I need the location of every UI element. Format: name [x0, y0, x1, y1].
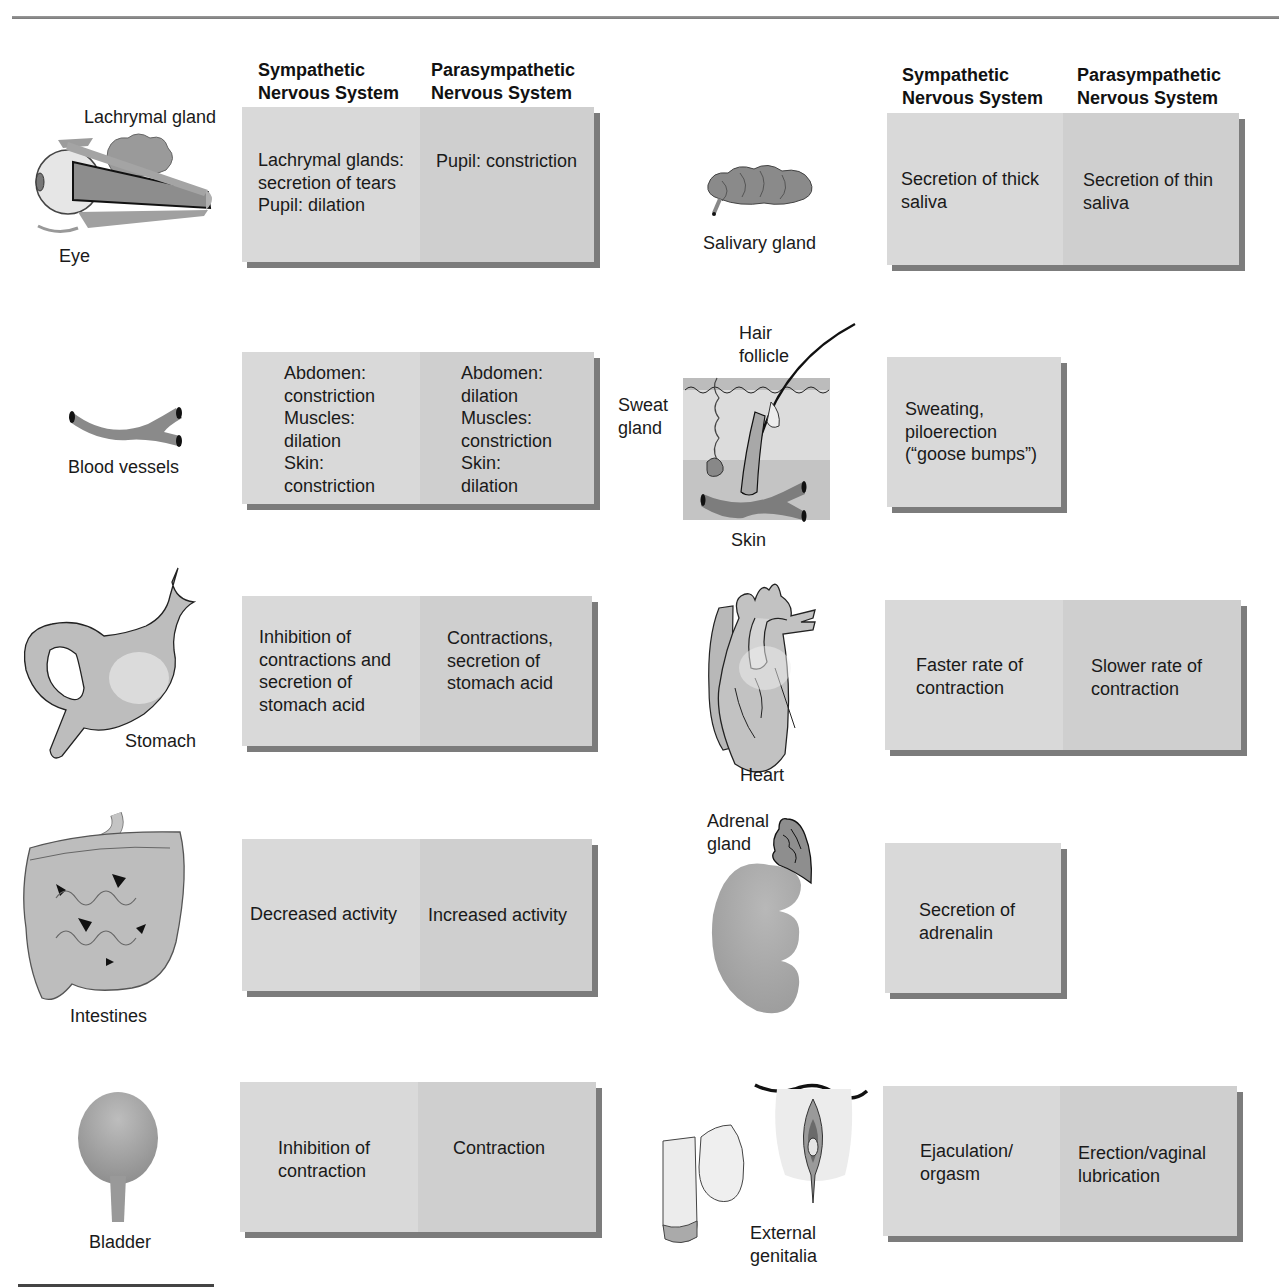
effect-box-skin: Sweating, piloerection (“goose bumps”) [887, 357, 1061, 507]
adrenal-kidney-icon [695, 815, 825, 1015]
organ-label-heart: Heart [740, 764, 784, 787]
lachrymal-gland-label: Lachrymal gland [84, 106, 216, 129]
blood-vessel-icon [68, 400, 188, 450]
organ-label-skin: Skin [731, 529, 766, 552]
sympathetic-effect-external-genitalia: Ejaculation/ orgasm [883, 1086, 1060, 1236]
sweat-gland-label: Sweat gland [618, 394, 668, 440]
organ-label-external-genitalia: External genitalia [750, 1222, 817, 1268]
heart-icon [695, 578, 825, 760]
sympathetic-effect-heart: Faster rate of contraction [885, 600, 1063, 750]
sympathetic-effect-blood-vessels: Abdomen: constriction Muscles: dilation … [242, 352, 420, 504]
skin-icon [683, 322, 858, 522]
parasympathetic-effect-blood-vessels: Abdomen: dilation Muscles: constriction … [420, 352, 594, 504]
parasympathetic-effect-external-genitalia: Erection/vaginal lubrication [1060, 1086, 1237, 1236]
sympathetic-effect-adrenal: Secretion of adrenalin [885, 843, 1061, 993]
parasympathetic-effect-bladder: Contraction [418, 1082, 596, 1232]
sympathetic-effect-eye: Lachrymal glands: secretion of tears Pup… [242, 107, 420, 262]
parasympathetic-effect-salivary-gland: Secretion of thin saliva [1063, 113, 1239, 265]
parasympathetic-effect-eye: Pupil: constriction [420, 107, 594, 262]
effect-box-external-genitalia: Ejaculation/ orgasm Erection/vaginal lub… [883, 1086, 1237, 1236]
bladder-icon [68, 1090, 168, 1222]
organ-label-salivary-gland: Salivary gland [703, 232, 816, 255]
organ-label-stomach: Stomach [125, 730, 196, 753]
header-sympathetic-left: Sympathetic Nervous System [258, 59, 399, 105]
effect-box-intestines: Decreased activity Increased activity [242, 839, 592, 991]
effect-box-adrenal: Secretion of adrenalin [885, 843, 1061, 993]
organ-label-intestines: Intestines [70, 1005, 147, 1028]
bottom-rule [18, 1284, 214, 1287]
parasympathetic-effect-heart: Slower rate of contraction [1063, 600, 1241, 750]
effect-box-stomach: Inhibition of contractions and secretion… [242, 596, 592, 746]
top-rule [12, 16, 1279, 19]
intestines-icon [16, 808, 186, 1008]
sympathetic-effect-skin: Sweating, piloerection (“goose bumps”) [887, 357, 1061, 507]
effect-box-blood-vessels: Abdomen: constriction Muscles: dilation … [242, 352, 594, 504]
sympathetic-effect-intestines: Decreased activity [242, 839, 420, 991]
header-sympathetic-right: Sympathetic Nervous System [902, 64, 1043, 110]
effect-box-salivary-gland: Secretion of thick saliva Secretion of t… [887, 113, 1239, 265]
organ-label-bladder: Bladder [89, 1231, 151, 1254]
header-parasympathetic-right: Parasympathetic Nervous System [1077, 64, 1221, 110]
parasympathetic-effect-stomach: Contractions, secretion of stomach acid [420, 596, 592, 746]
sympathetic-effect-bladder: Inhibition of contraction [240, 1082, 418, 1232]
effect-box-heart: Faster rate of contraction Slower rate o… [885, 600, 1241, 750]
organ-label-eye: Eye [59, 245, 90, 268]
header-parasympathetic-left: Parasympathetic Nervous System [431, 59, 575, 105]
organ-label-blood-vessels: Blood vessels [68, 456, 179, 479]
effect-box-eye: Lachrymal glands: secretion of tears Pup… [242, 107, 594, 262]
eye-icon [28, 130, 228, 240]
salivary-gland-icon [704, 165, 816, 217]
sympathetic-effect-stomach: Inhibition of contractions and secretion… [242, 596, 420, 746]
sympathetic-effect-salivary-gland: Secretion of thick saliva [887, 113, 1063, 265]
effect-box-bladder: Inhibition of contraction Contraction [240, 1082, 596, 1232]
parasympathetic-effect-intestines: Increased activity [420, 839, 592, 991]
